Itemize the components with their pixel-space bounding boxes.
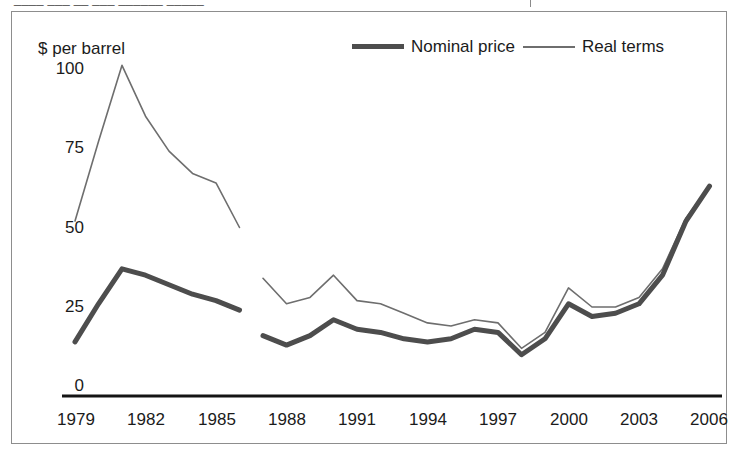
series-nominal-price-segment-2 <box>263 186 710 355</box>
oil-price-chart-figure: ____ ___ __ ___ ______ _____ $ per barre… <box>0 0 739 453</box>
series-nominal-price-segment-1 <box>75 269 240 342</box>
series-real-terms-segment-1 <box>75 65 240 227</box>
chart-plot-area <box>0 0 739 453</box>
